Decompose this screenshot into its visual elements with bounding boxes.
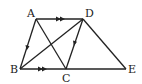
segment-de xyxy=(83,19,126,69)
segment-ab xyxy=(20,19,36,69)
parallel-mark-ad-icon xyxy=(56,17,65,22)
point-label-c: C xyxy=(62,72,70,84)
geometry-diagram: A D B C E xyxy=(0,0,142,84)
point-label-b: B xyxy=(10,63,18,76)
point-label-d: D xyxy=(85,7,94,20)
point-label-a: A xyxy=(26,7,36,20)
parallel-mark-bc-icon xyxy=(38,67,47,72)
point-label-e: E xyxy=(128,63,136,76)
